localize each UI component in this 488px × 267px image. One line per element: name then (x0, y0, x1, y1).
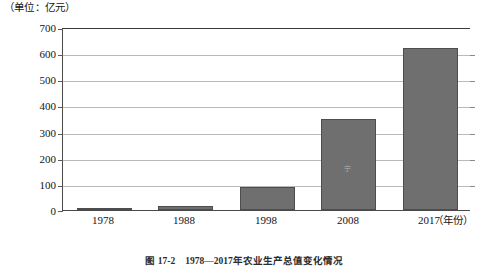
y-tick-mark-700 (58, 29, 63, 30)
y-tick-mark-right-600 (470, 55, 475, 56)
y-axis-tick-labels: 700 600 500 400 300 200 100 0 (8, 28, 56, 211)
bar-1988[interactable] (158, 206, 213, 211)
x-axis-tick-labels: 1978 1988 1998 2008 2017 (62, 214, 470, 232)
y-axis-tick-label: 100 (10, 179, 56, 190)
y-axis-tick-label: 500 (10, 75, 56, 86)
x-axis-tick-label-1978: 1978 (92, 214, 114, 227)
bar-1998[interactable] (240, 187, 295, 210)
y-axis-tick-label: 300 (10, 127, 56, 138)
bar-1978[interactable] (77, 208, 132, 210)
y-axis-tick-label: 200 (10, 153, 56, 164)
bar-2017[interactable] (403, 48, 458, 210)
x-axis-tick-label-1988: 1988 (173, 214, 195, 227)
x-axis-tick-label-2008: 2008 (337, 214, 359, 227)
x-axis-title: （年份） (433, 214, 473, 227)
y-tick-mark-300 (58, 134, 63, 135)
y-axis-tick-label: 400 (10, 101, 56, 112)
scan-artifact-mark: 宁 (344, 166, 351, 173)
y-axis-unit-label: （单位：亿元） (4, 2, 75, 14)
y-tick-mark-0 (58, 211, 63, 212)
x-axis-tick-label-1998: 1998 (255, 214, 277, 227)
y-tick-mark-right-200 (470, 160, 475, 161)
y-tick-mark-right-300 (470, 134, 475, 135)
y-tick-mark-right-500 (470, 81, 475, 82)
y-tick-mark-200 (58, 160, 63, 161)
y-axis-tick-label: 600 (10, 49, 56, 60)
y-tick-mark-400 (58, 107, 63, 108)
y-axis-tick-label: 0 (10, 206, 56, 217)
y-tick-mark-right-100 (470, 186, 475, 187)
y-tick-mark-100 (58, 186, 63, 187)
y-axis-tick-label: 700 (10, 23, 56, 34)
plot-area (62, 28, 470, 211)
y-tick-mark-500 (58, 81, 63, 82)
figure-caption: 图 17-2 1978—2017年农业生产总值变化情况 (0, 256, 488, 267)
y-tick-mark-600 (58, 55, 63, 56)
y-tick-mark-right-400 (470, 107, 475, 108)
